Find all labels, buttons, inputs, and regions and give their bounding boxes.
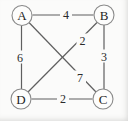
node-a: A [12, 6, 32, 26]
edge-weight-d-c: 2 [57, 92, 69, 106]
node-d-label: D [16, 92, 25, 107]
weight-text: 2 [80, 34, 86, 48]
node-b-label: B [100, 8, 109, 23]
weight-text: 4 [63, 8, 69, 22]
node-b: B [94, 5, 114, 25]
graph-diagram: 4 6 3 2 2 7 A B [0, 0, 128, 121]
edge-weight-a-d: 6 [14, 51, 26, 65]
weight-text: 2 [60, 92, 66, 106]
edge-weight-a-c: 7 [74, 71, 86, 85]
node-c: C [93, 89, 113, 109]
node-d: D [11, 89, 31, 109]
weight-text: 6 [17, 51, 23, 65]
graph-svg: 4 6 3 2 2 7 A B [0, 0, 128, 121]
weight-text: 7 [77, 71, 83, 85]
node-c-label: C [99, 92, 108, 107]
weight-text: 3 [101, 50, 107, 64]
node-a-label: A [17, 8, 27, 23]
edge-weight-d-b: 2 [77, 34, 89, 48]
edge-weight-b-c: 3 [98, 50, 110, 64]
edge-weight-a-b: 4 [60, 8, 72, 22]
